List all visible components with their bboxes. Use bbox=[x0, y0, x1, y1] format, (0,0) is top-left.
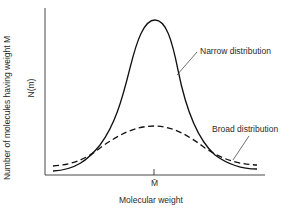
broad-leader-line bbox=[233, 136, 249, 160]
broad-distribution-annotation: Broad distribution bbox=[212, 125, 278, 134]
y-axis-label: Number of molecules having weight M bbox=[2, 36, 12, 180]
y-axis-secondary-label: N(m) bbox=[26, 79, 36, 98]
x-tick-label-mean: M̄ bbox=[151, 179, 158, 188]
narrow-distribution-curve bbox=[53, 20, 257, 171]
distribution-diagram bbox=[0, 0, 297, 217]
x-axis-label: Molecular weight bbox=[119, 196, 183, 205]
narrow-distribution-annotation: Narrow distribution bbox=[200, 47, 271, 56]
narrow-leader-line bbox=[177, 52, 197, 75]
